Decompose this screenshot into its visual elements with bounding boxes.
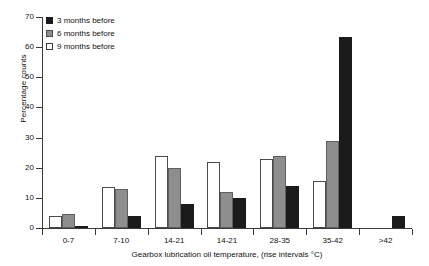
x-axis-group-label: 35-42 — [306, 236, 359, 245]
legend-swatch-gray-icon — [46, 30, 53, 37]
x-axis-line — [42, 228, 412, 229]
bar — [115, 189, 128, 228]
bar — [181, 204, 194, 228]
x-axis-end-tick — [412, 229, 413, 235]
x-axis-group-label: 14-21 — [201, 236, 254, 245]
legend-item-label: 9 months before — [57, 42, 115, 51]
legend: 3 months before 6 months before 9 months… — [46, 15, 115, 51]
x-axis-divider-tick — [95, 229, 96, 235]
bar — [168, 168, 181, 228]
bar-group — [201, 17, 254, 228]
bar-group — [359, 17, 412, 228]
legend-item-label: 6 months before — [57, 29, 115, 38]
bar-group — [306, 17, 359, 228]
bar — [273, 156, 286, 228]
bar — [260, 159, 273, 228]
bar — [128, 216, 141, 228]
legend-swatch-white-icon — [46, 43, 53, 50]
bar — [207, 162, 220, 228]
x-axis-divider-tick — [359, 229, 360, 235]
x-axis-divider-tick — [148, 229, 149, 235]
y-axis-tick-label: 0 — [14, 223, 34, 232]
legend-swatch-black-icon — [46, 17, 53, 24]
x-axis-group-label: 28-35 — [253, 236, 306, 245]
x-axis-end-tick — [42, 229, 43, 235]
y-axis-tick-label: 50 — [14, 72, 34, 81]
bar — [220, 192, 233, 228]
bar — [62, 214, 75, 228]
legend-item-label: 3 months before — [57, 16, 115, 25]
bar-chart: Percentage counts 010203040506070 0-77-1… — [0, 0, 429, 266]
bar — [313, 181, 326, 228]
y-axis-tick-label: 60 — [14, 42, 34, 51]
legend-item: 3 months before — [46, 15, 115, 25]
bar — [392, 216, 405, 228]
bar-group — [253, 17, 306, 228]
bar — [286, 186, 299, 228]
bar — [326, 141, 339, 228]
bar — [339, 37, 352, 228]
x-axis-group-label: 0-7 — [42, 236, 95, 245]
x-axis-divider-tick — [253, 229, 254, 235]
bar — [102, 187, 115, 228]
legend-item: 6 months before — [46, 28, 115, 38]
x-axis-group-label: >42 — [359, 236, 412, 245]
x-axis-divider-tick — [306, 229, 307, 235]
x-axis-group-label: 14-21 — [148, 236, 201, 245]
bar-group — [148, 17, 201, 228]
y-axis-tick-label: 10 — [14, 193, 34, 202]
x-axis-divider-tick — [201, 229, 202, 235]
bar — [49, 216, 62, 228]
x-axis-title: Gearbox lubrication oil temperature, (ri… — [42, 250, 412, 259]
legend-item: 9 months before — [46, 41, 115, 51]
y-axis-tick-label: 40 — [14, 102, 34, 111]
bar — [233, 198, 246, 228]
y-axis-tick-label: 20 — [14, 163, 34, 172]
y-axis-tick-label: 70 — [14, 12, 34, 21]
x-axis-group-label: 7-10 — [95, 236, 148, 245]
y-axis-tick-label: 30 — [14, 133, 34, 142]
bar — [155, 156, 168, 228]
